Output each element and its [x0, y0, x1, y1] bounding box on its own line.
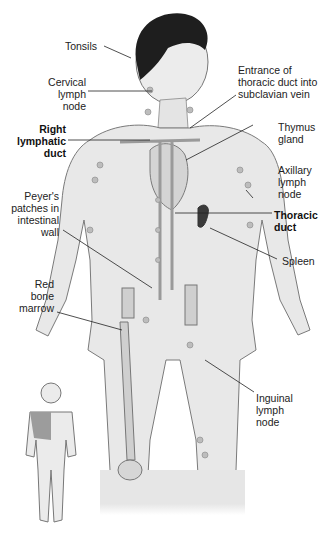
label-thymus-gland: Thymus gland	[278, 121, 315, 145]
label-spleen: Spleen	[282, 255, 315, 267]
label-tonsils: Tonsils	[65, 40, 97, 52]
label-peyers-patches: Peyer's patches in intestinal wall	[11, 190, 59, 238]
label-inguinal-lymph-node: Inguinal lymph node	[256, 392, 293, 428]
label-thoracic-duct: Thoracic duct	[274, 209, 318, 233]
lymphatic-system-diagram: Tonsils Cervical lymph node Right lympha…	[0, 0, 331, 540]
label-right-lymphatic-duct: Right lymphatic duct	[17, 123, 66, 159]
inset-figure	[26, 383, 76, 522]
label-axillary-lymph-node: Axillary lymph node	[278, 164, 312, 200]
label-thoracic-duct-entrance: Entrance of thoracic duct into subclavia…	[238, 64, 317, 100]
label-red-bone-marrow: Red bone marrow	[19, 278, 54, 314]
label-cervical-lymph-node: Cervical lymph node	[48, 76, 86, 112]
